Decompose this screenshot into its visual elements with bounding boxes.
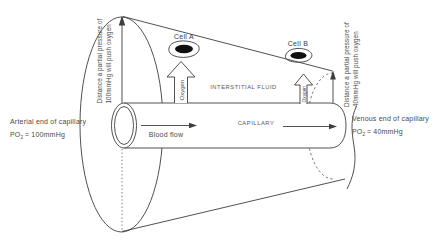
cell-b-nucleus — [291, 52, 307, 59]
right-distance-label-line1: Distance a partial pressure of — [343, 22, 351, 107]
oxygen-label-left: Oxygen — [179, 80, 185, 101]
right-distance-label-line2: 40mmHg will push oxygen — [352, 31, 360, 107]
cell-a-label: Cell A — [174, 33, 194, 40]
venous-end-label: Venous end of capillary PO2= 40mmHg — [352, 115, 429, 137]
oxygen-label-right: Oxygen — [302, 86, 307, 103]
capillary-opening-outer — [112, 103, 137, 148]
arterial-end-label: Arterial end of capillary PO2= 100mmHg — [10, 118, 86, 140]
arterial-end-label-line1: Arterial end of capillary — [10, 118, 86, 126]
arterial-end-label-line2: PO2= 100mmHg — [10, 131, 65, 140]
cell-b-label: Cell B — [288, 40, 309, 47]
right-distance-arrowhead-icon — [330, 71, 336, 80]
arterial-po-value: = 100mmHg — [25, 131, 65, 139]
cell-a-nucleus — [175, 45, 193, 53]
venous-po-subscript: 2 — [363, 132, 366, 137]
left-distance-label-line2: 100mmHg will push oxygen — [105, 24, 113, 104]
venous-po-value: = 40mmHg — [367, 128, 403, 136]
arterial-po-text: PO — [10, 131, 21, 138]
diagram-svg: Oxygen Oxygen Cell A Cell B INTERSTITIAL… — [0, 0, 438, 249]
blood-flow-label: Blood flow — [149, 131, 184, 138]
capillary-label: CAPILLARY — [238, 120, 275, 126]
venous-po-text: PO — [352, 128, 363, 135]
diffusion-cone-diagram: Oxygen Oxygen Cell A Cell B INTERSTITIAL… — [0, 0, 438, 249]
arterial-po-subscript: 2 — [21, 135, 24, 140]
venous-end-label-line2: PO2= 40mmHg — [352, 128, 403, 137]
left-distance-label-line1: Distance a partial pressure of — [96, 18, 104, 103]
interstitial-fluid-label: INTERSTITIAL FLUID — [210, 84, 277, 90]
venous-end-label-line1: Venous end of capillary — [352, 115, 429, 123]
